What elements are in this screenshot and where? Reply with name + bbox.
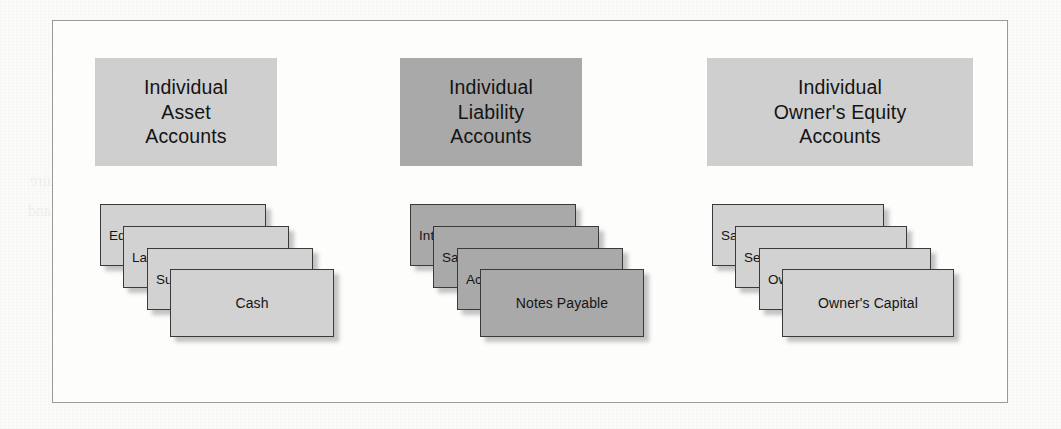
group-header-line: Accounts — [450, 124, 531, 149]
group-header-line: Individual — [798, 75, 882, 100]
group-header-line: Liability — [458, 100, 524, 125]
group-header-line: Owner's Equity — [774, 100, 907, 125]
group-header-line: Accounts — [145, 124, 226, 149]
group-header-line: Individual — [449, 75, 533, 100]
account-card: Owner's Capital — [782, 269, 954, 337]
diagram-frame: IndividualAssetAccountsEquipmentLandSupp… — [52, 20, 1008, 403]
account-card: Notes Payable — [480, 269, 644, 337]
group-header-line: Accounts — [799, 124, 880, 149]
group-header-owners-equity: IndividualOwner's EquityAccounts — [707, 58, 973, 166]
group-header-liability: IndividualLiabilityAccounts — [400, 58, 582, 166]
account-card-label: Cash — [171, 295, 333, 311]
account-card-label: Owner's Capital — [783, 295, 953, 311]
group-header-asset: IndividualAssetAccounts — [95, 58, 277, 166]
group-header-line: Individual — [144, 75, 228, 100]
group-header-line: Asset — [161, 100, 211, 125]
account-card-label: Notes Payable — [481, 295, 643, 311]
account-card: Cash — [170, 269, 334, 337]
